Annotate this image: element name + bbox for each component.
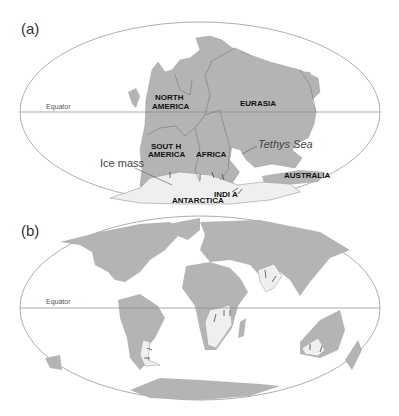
- label-eurasia: EURASIA: [240, 99, 276, 108]
- equator-label-b: Equator: [46, 298, 71, 306]
- label-america-s: AMERICA: [148, 150, 186, 159]
- equator-label-a: Equator: [46, 103, 71, 111]
- ice-mass-label: Ice mass: [100, 157, 145, 169]
- label-north: NORTH: [155, 93, 184, 102]
- label-america-n: AMERICA: [152, 102, 190, 111]
- label-india: INDI A: [214, 190, 238, 199]
- map-b: Equator: [0, 210, 399, 416]
- label-africa: AFRICA: [196, 150, 226, 159]
- label-australia: AUSTRALIA: [284, 171, 330, 180]
- tethys-sea-label: Tethys Sea: [258, 138, 313, 150]
- map-a: Equator NORTH AMERICA SOUT H AMERICA AFR…: [0, 0, 399, 210]
